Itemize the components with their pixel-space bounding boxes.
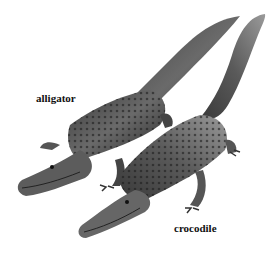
reptiles-illustration xyxy=(0,0,274,256)
alligator-label: alligator xyxy=(36,92,76,104)
crocodile-label: crocodile xyxy=(174,222,217,234)
illustration-canvas: alligator crocodile xyxy=(0,0,274,256)
